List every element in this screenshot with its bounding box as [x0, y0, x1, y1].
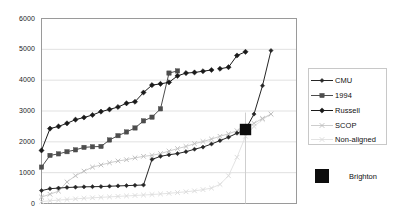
series-lines [39, 48, 273, 203]
legend-item-scop[interactable]: SCOP [309, 118, 388, 133]
brighton-marker-swatch [315, 169, 329, 183]
y-tick-4000: 4000 [1, 76, 35, 84]
legend-label-scop: SCOP [335, 121, 356, 130]
chart-legend: CMU 1994 Russell SCOP Non-aligned [308, 68, 387, 145]
y-tick-5000: 5000 [1, 45, 35, 53]
legend-item-non-aligned[interactable]: Non-aligned [309, 132, 388, 147]
legend-marker-scop [309, 119, 335, 132]
brighton-label: Brighton [349, 172, 377, 181]
legend-label-russell: Russell [335, 106, 360, 115]
legend-marker-russell [309, 104, 335, 117]
legend-item-1994[interactable]: 1994 [309, 88, 388, 103]
legend-label-1994: 1994 [335, 91, 352, 100]
y-tick-6000: 6000 [1, 15, 35, 23]
brighton-legend: Brighton [310, 163, 390, 189]
y-tick-2000: 2000 [1, 138, 35, 146]
legend-label-cmu: CMU [335, 76, 352, 85]
legend-item-cmu[interactable]: CMU [309, 73, 388, 88]
y-tick-3000: 3000 [1, 107, 35, 115]
y-tick-0: 0 [1, 200, 35, 208]
legend-item-russell[interactable]: Russell [309, 103, 388, 118]
legend-label-non-aligned: Non-aligned [335, 135, 376, 144]
legend-marker-1994 [309, 89, 335, 102]
legend-marker-cmu [309, 74, 335, 87]
chart-container: 6000 5000 4000 3000 2000 1000 0 CMU 1994… [0, 0, 394, 222]
legend-marker-non-aligned [309, 133, 335, 146]
gridlines [42, 19, 297, 173]
y-tick-1000: 1000 [1, 169, 35, 177]
highlight-markers [240, 113, 251, 204]
